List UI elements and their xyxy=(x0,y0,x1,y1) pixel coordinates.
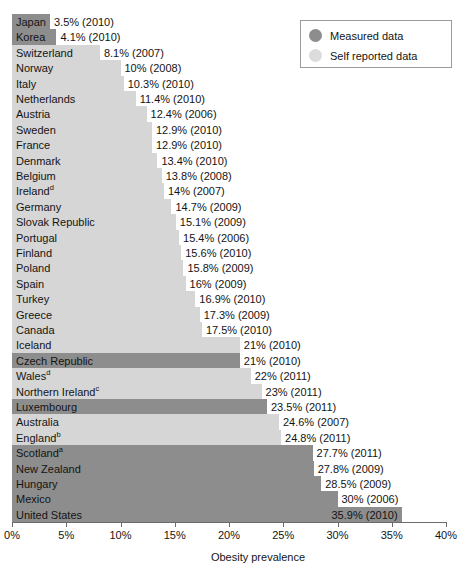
legend-item-self: Self reported data xyxy=(309,45,417,65)
legend-label: Self reported data xyxy=(330,46,417,66)
bar-value-label: 15.6% (2010) xyxy=(185,245,251,261)
bar-hungary xyxy=(12,476,321,492)
bar-value-label: 8.1% (2007) xyxy=(104,45,164,61)
bar-value-label: 22% (2011) xyxy=(255,368,311,384)
bar-mexico xyxy=(12,491,338,507)
x-tick-label: 5% xyxy=(58,529,74,541)
legend-swatch-measured-icon xyxy=(309,29,322,42)
bar-category-label: Austria xyxy=(16,106,50,122)
bar-row: Mexico30% (2006) xyxy=(0,491,472,507)
bar-row: Scotlanda27.7% (2011) xyxy=(0,445,472,461)
bar-category-label: Greece xyxy=(16,307,52,323)
x-tick-label: 25% xyxy=(272,529,294,541)
bar-category-label: Northern Irelandc xyxy=(16,384,99,400)
obesity-prevalence-chart: Japan3.5% (2010)Korea4.1% (2010)Switzerl… xyxy=(0,0,472,575)
bar-row: Sweden12.9% (2010) xyxy=(0,122,472,138)
bar-row: Greece17.3% (2009) xyxy=(0,307,472,323)
bar-row: Slovak Republic15.1% (2009) xyxy=(0,214,472,230)
x-tick-mark xyxy=(121,522,122,527)
bar-category-label: Irelandd xyxy=(16,183,54,199)
plot-area: Japan3.5% (2010)Korea4.1% (2010)Switzerl… xyxy=(0,14,472,522)
bar-row: Finland15.6% (2010) xyxy=(0,245,472,261)
x-tick-label: 10% xyxy=(109,529,131,541)
bar-category-label: Norway xyxy=(16,60,53,76)
bar-category-label: Canada xyxy=(16,322,55,338)
x-axis: 0%5%10%15%20%25%30%35%40% xyxy=(0,522,472,552)
bar-category-label: Italy xyxy=(16,76,36,92)
bar-row: New Zealand27.8% (2009) xyxy=(0,461,472,477)
bar-value-label: 3.5% (2010) xyxy=(54,14,114,30)
bar-row: Spain16% (2009) xyxy=(0,276,472,292)
bar-category-label: Netherlands xyxy=(16,91,75,107)
bar-category-label: Germany xyxy=(16,199,61,215)
bar-category-label: Spain xyxy=(16,276,44,292)
footnote-marker: b xyxy=(56,430,60,439)
bar-category-label: Poland xyxy=(16,260,50,276)
bar-value-label: 10% (2008) xyxy=(125,60,182,76)
bar-row: Hungary28.5% (2009) xyxy=(0,476,472,492)
bar-category-label: Portugal xyxy=(16,230,57,246)
bar-category-label: Luxembourg xyxy=(16,399,77,415)
bar-value-label: 14% (2007) xyxy=(168,183,225,199)
bar-row: Irelandd14% (2007) xyxy=(0,183,472,199)
bar-value-label: 28.5% (2009) xyxy=(325,476,391,492)
bar-row: Austria12.4% (2006) xyxy=(0,106,472,122)
legend-swatch-self-icon xyxy=(309,49,322,62)
bar-category-label: Hungary xyxy=(16,476,58,492)
bar-value-label: 14.7% (2009) xyxy=(175,199,241,215)
bar-row: United States35.9% (2010) xyxy=(0,507,472,523)
x-tick-mark xyxy=(229,522,230,527)
bar-category-label: Walesd xyxy=(16,368,50,384)
bar-value-label: 16.9% (2010) xyxy=(199,291,265,307)
bar-value-label: 15.1% (2009) xyxy=(180,214,246,230)
bar-row: Netherlands11.4% (2010) xyxy=(0,91,472,107)
bar-row: Poland15.8% (2009) xyxy=(0,260,472,276)
bar-value-label: 4.1% (2010) xyxy=(60,29,120,45)
x-tick-mark xyxy=(446,522,447,527)
bar-row: Australia24.6% (2007) xyxy=(0,414,472,430)
x-tick-mark xyxy=(66,522,67,527)
bar-value-label: 24.8% (2011) xyxy=(285,430,350,446)
footnote-marker: d xyxy=(50,184,54,193)
bar-row: Walesd22% (2011) xyxy=(0,368,472,384)
bar-value-label: 21% (2010) xyxy=(244,353,301,369)
bar-value-label: 10.3% (2010) xyxy=(128,76,194,92)
bar-value-label: 12.9% (2010) xyxy=(156,137,222,153)
x-tick-label: 20% xyxy=(218,529,240,541)
bar-category-label: Finland xyxy=(16,245,52,261)
bar-row: Denmark13.4% (2010) xyxy=(0,153,472,169)
x-tick-mark xyxy=(175,522,176,527)
bar-value-label: 15.8% (2009) xyxy=(187,260,253,276)
bar-value-label: 13.8% (2008) xyxy=(166,168,232,184)
x-tick-label: 0% xyxy=(4,529,20,541)
bar-value-label: 11.4% (2010) xyxy=(140,91,205,107)
bar-category-label: Scotlanda xyxy=(16,445,63,461)
bar-category-label: Belgium xyxy=(16,168,56,184)
x-tick-mark xyxy=(283,522,284,527)
legend-item-measured: Measured data xyxy=(309,25,403,45)
bar-category-label: Englandb xyxy=(16,430,61,446)
bar-row: Northern Irelandc23% (2011) xyxy=(0,384,472,400)
x-tick-mark xyxy=(392,522,393,527)
x-tick-label: 35% xyxy=(381,529,403,541)
bar-value-label: 24.6% (2007) xyxy=(283,414,349,430)
bar-row: Englandb24.8% (2011) xyxy=(0,430,472,446)
bar-row: Germany14.7% (2009) xyxy=(0,199,472,215)
bar-value-label: 17.5% (2010) xyxy=(206,322,272,338)
x-tick-label: 15% xyxy=(164,529,186,541)
bar-category-label: Mexico xyxy=(16,491,51,507)
bar-category-label: Switzerland xyxy=(16,45,73,61)
bar-row: Luxembourg23.5% (2011) xyxy=(0,399,472,415)
bar-value-label: 35.9% (2010) xyxy=(332,507,398,523)
bar-row: Canada17.5% (2010) xyxy=(0,322,472,338)
bar-value-label: 16% (2009) xyxy=(190,276,247,292)
bar-category-label: Sweden xyxy=(16,122,56,138)
bar-value-label: 12.4% (2006) xyxy=(151,106,217,122)
x-tick-label: 40% xyxy=(435,529,457,541)
footnote-marker: d xyxy=(46,369,50,378)
x-tick-mark xyxy=(338,522,339,527)
bar-row: Belgium13.8% (2008) xyxy=(0,168,472,184)
bar-value-label: 17.3% (2009) xyxy=(204,307,270,323)
x-tick-mark xyxy=(12,522,13,527)
bar-value-label: 23% (2011) xyxy=(266,384,322,400)
